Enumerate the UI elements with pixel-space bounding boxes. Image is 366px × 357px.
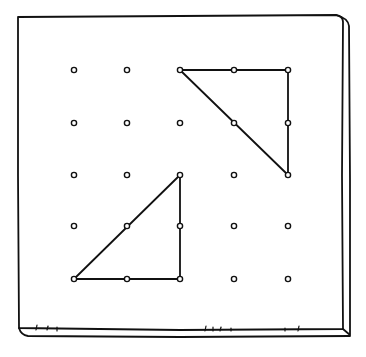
peg-icon xyxy=(231,172,236,177)
peg-icon xyxy=(285,172,290,177)
peg-icon xyxy=(231,223,236,228)
peg-icon xyxy=(124,120,129,125)
peg-icon xyxy=(124,276,129,281)
peg-icon xyxy=(71,276,76,281)
peg-icon xyxy=(124,67,129,72)
peg-icon xyxy=(177,276,182,281)
peg-icon xyxy=(285,67,290,72)
peg-icon xyxy=(285,223,290,228)
peg-icon xyxy=(177,120,182,125)
peg-icon xyxy=(124,172,129,177)
peg-icon xyxy=(71,120,76,125)
peg-icon xyxy=(285,120,290,125)
peg-icon xyxy=(71,67,76,72)
peg-icon xyxy=(177,67,182,72)
peg-icon xyxy=(231,276,236,281)
peg-icon xyxy=(71,223,76,228)
peg-icon xyxy=(231,120,236,125)
peg-icon xyxy=(71,172,76,177)
peg-icon xyxy=(285,276,290,281)
peg-icon xyxy=(177,223,182,228)
peg-icon xyxy=(177,172,182,177)
board xyxy=(18,15,350,337)
geoboard-diagram xyxy=(0,0,366,357)
peg-icon xyxy=(124,223,129,228)
peg-icon xyxy=(231,67,236,72)
